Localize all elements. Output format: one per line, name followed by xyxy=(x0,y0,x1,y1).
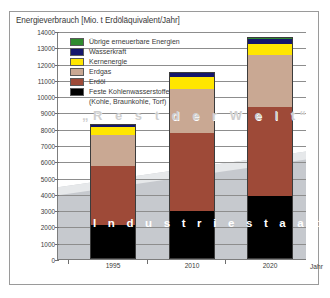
y-tick-label: 3000 xyxy=(41,208,55,215)
legend-swatch-icon xyxy=(70,58,84,66)
y-tick-mark xyxy=(55,97,59,98)
y-tick-label: 13000 xyxy=(37,45,55,52)
y-tick-label: 1000 xyxy=(41,240,55,247)
y-tick-label: 0 xyxy=(51,257,55,264)
y-tick-mark xyxy=(55,48,59,49)
legend-swatch-icon xyxy=(70,48,84,56)
gridline xyxy=(58,32,306,33)
x-tick-label-1995: 1995 xyxy=(106,262,121,269)
bar-outline xyxy=(247,37,293,259)
y-tick-label: 11000 xyxy=(38,77,55,84)
x-tick-mark xyxy=(68,260,69,264)
legend-item-erd-l: Erdöl xyxy=(70,78,180,87)
y-tick-label: 5000 xyxy=(41,175,55,182)
legend-item-erdgas: Erdgas xyxy=(70,68,180,77)
y-tick-label: 2000 xyxy=(41,224,55,231)
legend-label: Kernenergie xyxy=(89,58,127,67)
y-tick-label: 14000 xyxy=(37,29,55,36)
legend-item--brige-erneuerbare-energien: Übrige erneuerbare Energien xyxy=(70,38,180,47)
legend-label: Wasserkraft xyxy=(89,48,126,57)
x-axis-label: Jahr xyxy=(310,263,323,270)
y-tick-mark xyxy=(55,146,59,147)
legend-item-feste-kohlenwasserstoffe: Feste Kohlenwasserstoffe xyxy=(70,88,180,97)
y-tick-mark xyxy=(55,113,59,114)
y-tick-mark xyxy=(55,32,59,33)
legend-swatch-icon xyxy=(70,38,84,46)
y-tick-mark xyxy=(55,244,59,245)
y-tick-mark xyxy=(55,179,59,180)
legend-item-wasserkraft: Wasserkraft xyxy=(70,48,180,57)
chart-credit: Grafik: SCHENK 2000 xyxy=(246,268,305,274)
legend-item-kernenergie: Kernenergie xyxy=(70,58,180,67)
legend-label: Erdgas xyxy=(89,68,111,77)
bar-outline xyxy=(90,124,136,259)
chart-frame: Energieverbrauch [Mio. t Erdöläquivalent… xyxy=(9,11,319,285)
legend-swatch-icon xyxy=(70,88,84,96)
chart-legend: Übrige erneuerbare EnergienWasserkraftKe… xyxy=(70,38,180,107)
y-tick-mark xyxy=(55,65,59,66)
y-tick-label: 10000 xyxy=(37,94,55,101)
y-tick-mark xyxy=(55,130,59,131)
x-tick-label-2010: 2010 xyxy=(185,262,200,269)
legend-label: Erdöl xyxy=(89,78,105,87)
legend-label: Feste Kohlenwasserstoffe xyxy=(89,88,169,97)
y-tick-label: 9000 xyxy=(41,110,55,117)
legend-swatch-icon xyxy=(70,78,84,86)
y-tick-mark xyxy=(55,260,59,261)
x-tick-mark xyxy=(147,260,148,264)
y-tick-mark xyxy=(55,211,59,212)
y-tick-mark xyxy=(55,81,59,82)
y-tick-mark xyxy=(55,227,59,228)
y-tick-mark xyxy=(55,195,59,196)
y-tick-label: 12000 xyxy=(37,61,55,68)
y-tick-label: 4000 xyxy=(41,191,55,198)
y-tick-mark xyxy=(55,162,59,163)
y-tick-label: 8000 xyxy=(41,126,55,133)
legend-sublabel: (Kohle, Braunkohle, Torf) xyxy=(89,98,180,107)
legend-label: Übrige erneuerbare Energien xyxy=(89,38,180,47)
chart-title: Energieverbrauch [Mio. t Erdöläquivalent… xyxy=(16,16,180,25)
x-tick-mark xyxy=(225,260,226,264)
legend-swatch-icon xyxy=(70,68,84,76)
y-tick-label: 7000 xyxy=(41,143,55,150)
y-tick-label: 6000 xyxy=(41,159,55,166)
